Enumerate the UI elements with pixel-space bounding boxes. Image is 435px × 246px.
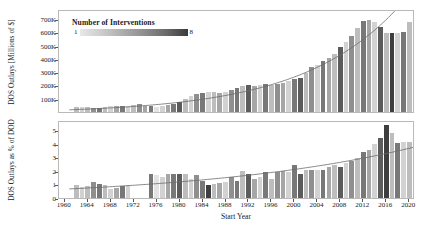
- bar: [114, 106, 119, 112]
- bar: [240, 86, 245, 112]
- bar: [160, 177, 165, 198]
- bar: [91, 182, 96, 198]
- y-tick-label: 600K: [40, 29, 56, 37]
- y-tick-mark: [55, 20, 58, 21]
- x-tick-label: 2004: [309, 201, 323, 209]
- y-tick-label: 200K: [40, 82, 56, 90]
- y-tick-label: 2: [40, 168, 56, 176]
- bar: [240, 171, 245, 198]
- bar: [246, 85, 251, 112]
- y-tick-mark: [55, 172, 58, 173]
- bar: [321, 170, 326, 198]
- bar: [189, 96, 194, 112]
- bar: [263, 84, 268, 112]
- x-tick-label: 2020: [401, 201, 415, 209]
- bar: [298, 174, 303, 198]
- x-tick-label: 1996: [263, 201, 277, 209]
- bar: [246, 174, 251, 198]
- bar: [108, 106, 113, 112]
- bar: [321, 61, 326, 112]
- bottom-panel: [58, 121, 414, 199]
- bar: [298, 78, 303, 112]
- bar: [80, 187, 85, 198]
- bar: [252, 86, 257, 112]
- legend-colorbar-row: 1 8: [72, 28, 195, 36]
- x-tick-label: 1988: [218, 201, 232, 209]
- bar: [258, 177, 263, 198]
- bar: [194, 175, 199, 198]
- bar: [97, 184, 102, 198]
- bar: [137, 104, 142, 112]
- bar: [327, 167, 332, 198]
- bar: [206, 92, 211, 112]
- bar: [166, 174, 171, 198]
- bar: [372, 144, 377, 198]
- bar: [85, 186, 90, 198]
- bar: [200, 181, 205, 198]
- x-axis-title: Start Year: [221, 212, 251, 221]
- legend-colorbar: [80, 29, 188, 36]
- bar: [384, 125, 389, 198]
- bar: [401, 142, 406, 198]
- bottom-panel-plot-area: [59, 122, 413, 198]
- bar: [269, 85, 274, 112]
- bar: [149, 106, 154, 112]
- bar: [281, 171, 286, 198]
- bar: [407, 142, 412, 198]
- x-tick-label: 1992: [240, 201, 254, 209]
- bar: [286, 172, 291, 198]
- bar: [309, 170, 314, 198]
- bar: [143, 106, 148, 113]
- bar: [332, 54, 337, 112]
- y-tick-label: 100K: [40, 96, 56, 104]
- bar: [212, 184, 217, 198]
- bar: [74, 107, 79, 112]
- bar: [378, 27, 383, 112]
- bar: [171, 104, 176, 112]
- bar: [212, 92, 217, 112]
- bar: [217, 183, 222, 198]
- bar: [395, 33, 400, 112]
- bar: [85, 107, 90, 112]
- y-tick-label: 500K: [40, 43, 56, 51]
- bar: [177, 174, 182, 198]
- bar: [120, 186, 125, 198]
- bar: [378, 138, 383, 198]
- bar: [91, 108, 96, 112]
- bar: [258, 85, 263, 113]
- y-tick-mark: [55, 131, 58, 132]
- bar: [401, 32, 406, 112]
- bar: [200, 93, 205, 112]
- bar: [206, 185, 211, 198]
- bar: [327, 58, 332, 112]
- bar: [275, 172, 280, 198]
- bar: [315, 65, 320, 112]
- bar: [223, 182, 228, 198]
- bar: [235, 88, 240, 112]
- bar: [252, 179, 257, 198]
- bar: [275, 84, 280, 112]
- bar: [263, 172, 268, 198]
- bar: [177, 102, 182, 112]
- bar: [229, 177, 234, 198]
- y-tick-mark: [55, 185, 58, 186]
- y-tick-mark: [55, 100, 58, 101]
- top-panel-y-axis-label: DOS Outlays [Millions of $]: [8, 19, 16, 104]
- bar: [160, 106, 165, 112]
- x-tick-label: 2000: [286, 201, 300, 209]
- bar: [338, 47, 343, 112]
- bar: [309, 67, 314, 112]
- bottom-panel-y-axis-label: DOS Outlays as % of DOD: [8, 119, 16, 201]
- bar: [217, 93, 222, 112]
- legend-min-label: 1: [72, 28, 80, 36]
- bar: [372, 22, 377, 112]
- x-tick-label: 1964: [80, 201, 94, 209]
- bar: [108, 189, 113, 199]
- y-tick-label: 3: [40, 154, 56, 162]
- bar: [367, 20, 372, 112]
- bar: [384, 33, 389, 112]
- bar: [114, 188, 119, 198]
- legend-max-label: 8: [188, 28, 196, 36]
- bar: [154, 175, 159, 198]
- legend-title: Number of Interventions: [72, 18, 195, 27]
